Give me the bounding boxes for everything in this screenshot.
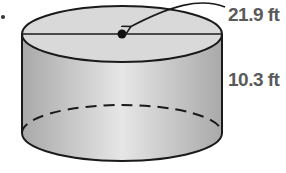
height-label: 10.3 ft	[228, 69, 279, 91]
center-point	[118, 30, 127, 39]
cylinder-diagram: 21.9 ft 10.3 ft	[0, 0, 286, 173]
diameter-label: 21.9 ft	[228, 4, 279, 26]
bullet-dot	[1, 15, 5, 19]
